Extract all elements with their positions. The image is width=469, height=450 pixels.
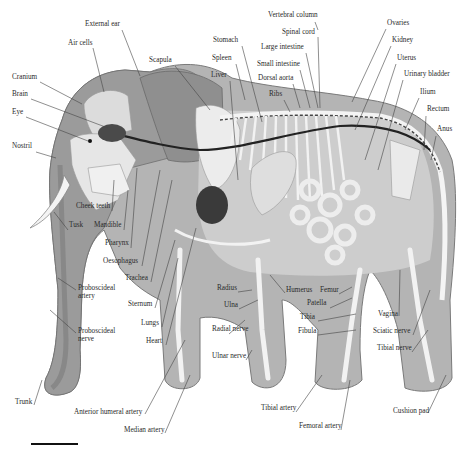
label-vertebral-column: Vertebral column xyxy=(268,12,318,20)
label-lungs: Lungs xyxy=(141,320,159,328)
label-cushion-pad: Cushion pad xyxy=(393,408,429,416)
heart xyxy=(196,186,228,224)
label-scapula: Scapula xyxy=(149,57,172,65)
vertebral-column-leader-line xyxy=(315,22,318,30)
label-brain: Brain xyxy=(12,91,28,99)
label-anterior-humeral-artery: Anterior humeral artery xyxy=(74,409,142,417)
label-radial-nerve: Radial nerve xyxy=(212,326,260,334)
external-ear-leader-line xyxy=(122,30,140,76)
scale-bar xyxy=(31,443,78,445)
label-tusk: Tusk xyxy=(69,222,83,230)
trunk-leader-line xyxy=(34,380,42,405)
label-femur: Femur xyxy=(320,287,339,295)
label-small-intestine: Small intestine xyxy=(257,61,300,69)
label-proboscideal-artery: Proboscideal artery xyxy=(78,285,126,301)
tibial-artery-leader-line xyxy=(296,375,322,412)
label-spinal-cord: Spinal cord xyxy=(282,29,315,37)
label-uterus: Uterus xyxy=(397,55,416,63)
label-heart: Heart xyxy=(146,338,162,346)
label-trachea: Trachea xyxy=(125,275,148,283)
label-urinary-bladder: Urinary bladder xyxy=(404,71,450,79)
label-dorsal-aorta: Dorsal aorta xyxy=(258,75,293,83)
label-ulna: Ulna xyxy=(224,302,238,310)
brain xyxy=(98,124,126,142)
label-stomach: Stomach xyxy=(213,37,238,45)
label-large-intestine: Large intestine xyxy=(261,44,304,52)
label-rectum: Rectum xyxy=(427,106,449,114)
label-ribs: Ribs xyxy=(269,91,282,99)
label-external-ear: External ear xyxy=(85,21,120,29)
label-proboscideal-nerve: Proboscideal nerve xyxy=(78,328,126,344)
label-tibia: Tibia xyxy=(300,314,315,322)
label-trunk: Trunk xyxy=(15,399,32,407)
label-cranium: Cranium xyxy=(12,74,37,82)
label-kidney: Kidney xyxy=(392,37,413,45)
label-femoral-artery: Femoral artery xyxy=(299,423,342,431)
label-tibial-nerve: Tibial nerve xyxy=(377,345,412,353)
label-fibula: Fibula xyxy=(298,328,316,336)
label-median-artery: Median artery xyxy=(124,427,165,435)
label-air-cells: Air cells xyxy=(68,40,93,48)
label-sternum: Sternum xyxy=(128,301,152,309)
label-cheek-teeth: Cheek teeth xyxy=(76,203,110,211)
label-vagina: Vagina xyxy=(378,311,398,319)
label-liver: Liver xyxy=(211,72,227,80)
label-anus: Anus xyxy=(437,126,452,134)
label-spleen: Spleen xyxy=(212,55,232,63)
label-ulnar-nerve: Ulnar nerve xyxy=(212,353,246,361)
label-radius: Radius xyxy=(217,285,237,293)
elephant-anatomy-diagram: External earAir cellsScapulaCraniumBrain… xyxy=(0,0,469,450)
label-tibial-artery: Tibial artery xyxy=(261,405,296,413)
label-sciatic-nerve: Sciatic nerve xyxy=(373,328,410,336)
label-nostril: Nostril xyxy=(12,143,32,151)
label-ilium: Ilium xyxy=(420,89,436,97)
label-patella: Patella xyxy=(307,300,327,308)
label-humerus: Humerus xyxy=(286,287,312,295)
label-pharynx: Pharynx xyxy=(105,240,129,248)
label-mandible: Mandible xyxy=(94,222,122,230)
label-eye: Eye xyxy=(12,109,23,117)
ovaries-leader-line xyxy=(352,29,386,102)
label-ovaries: Ovaries xyxy=(387,20,409,28)
eye xyxy=(88,139,92,143)
label-oesophagus: Oesophagus xyxy=(103,258,138,266)
